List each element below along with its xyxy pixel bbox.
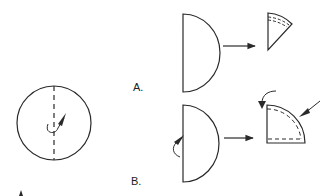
semicircle-b <box>173 105 219 182</box>
label-b: B. <box>131 175 141 187</box>
wedge-a <box>268 13 292 50</box>
semicircle-a <box>183 14 220 92</box>
full-circle <box>17 86 91 160</box>
partial-arrow-icon <box>19 190 23 196</box>
label-a: A. <box>133 81 143 93</box>
quarter-b <box>258 91 320 143</box>
folding-diagram <box>0 0 334 196</box>
